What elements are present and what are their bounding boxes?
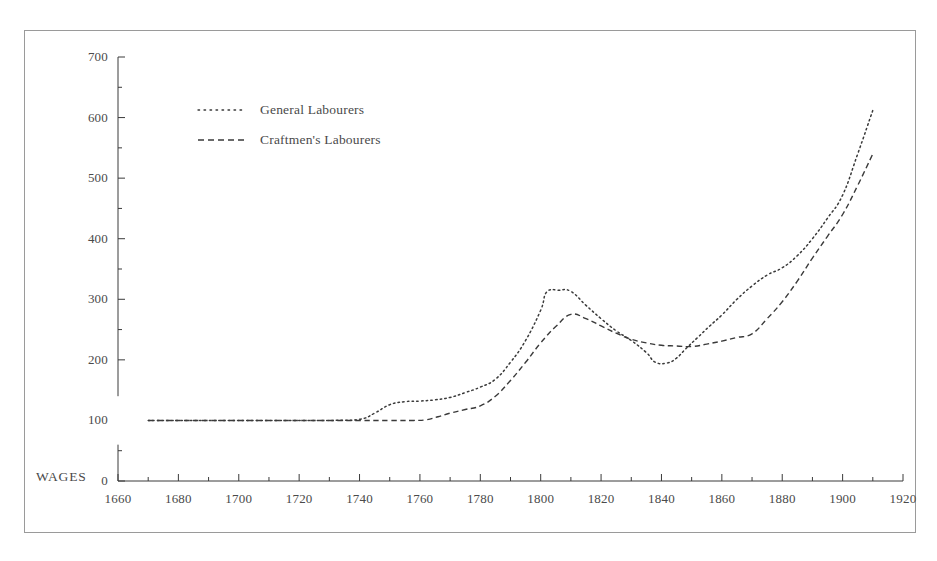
legend-key-dotted-icon <box>196 104 248 116</box>
y-tick-label: 200 <box>60 352 108 368</box>
y-tick-label: 400 <box>60 231 108 247</box>
y-tick-label: 100 <box>60 412 108 428</box>
legend-key-dashed-icon <box>196 134 248 146</box>
x-tick-label: 1840 <box>648 491 675 507</box>
x-tick-label: 1800 <box>527 491 554 507</box>
x-tick-label: 1720 <box>286 491 313 507</box>
x-tick-label: 1740 <box>346 491 373 507</box>
x-tick-label: 1900 <box>829 491 856 507</box>
x-tick-label: 1860 <box>708 491 735 507</box>
legend-label-craftmens-labourers: Craftmen's Labourers <box>260 132 381 148</box>
y-tick-label: 600 <box>60 110 108 126</box>
data-series <box>148 110 873 420</box>
series-line-general-labourers <box>148 110 873 420</box>
chart-figure: 0100200300400500600700 16601680170017201… <box>0 0 937 561</box>
chart-canvas <box>0 0 937 561</box>
y-axis-title: WAGES <box>36 469 87 485</box>
legend-item-general-labourers: General Labourers <box>196 95 446 125</box>
series-line-craftmen-s-labourers <box>148 154 873 421</box>
x-tick-label: 1880 <box>769 491 796 507</box>
x-tick-label: 1820 <box>588 491 615 507</box>
y-tick-label: 500 <box>60 170 108 186</box>
x-tick-label: 1780 <box>467 491 494 507</box>
x-tick-label: 1700 <box>225 491 252 507</box>
legend-item-craftmens-labourers: Craftmen's Labourers <box>196 125 446 155</box>
y-tick-label: 300 <box>60 291 108 307</box>
y-tick-label: 700 <box>60 49 108 65</box>
x-tick-label: 1660 <box>105 491 132 507</box>
x-tick-label: 1680 <box>165 491 192 507</box>
x-tick-label: 1920 <box>890 491 917 507</box>
x-tick-label: 1760 <box>407 491 434 507</box>
legend-label-general-labourers: General Labourers <box>260 102 364 118</box>
chart-legend: General Labourers Craftmen's Labourers <box>196 95 446 155</box>
